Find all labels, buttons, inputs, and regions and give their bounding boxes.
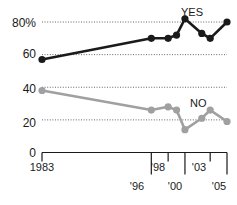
data-point-yes-2002 [198, 30, 205, 37]
y-tick-label-0: 0 [2, 147, 36, 159]
data-point-yes-1983 [38, 56, 45, 63]
data-point-yes-1996 [148, 35, 155, 42]
y-tick-label-20: 20 [2, 117, 36, 129]
chart-container: 80% 60 40 20 0 1983 '96 '98 '00 '03 '05 … [0, 0, 237, 205]
data-point-no-2005 [223, 118, 230, 125]
data-point-no-2000 [181, 126, 188, 133]
y-tick-label-80: 80% [2, 17, 36, 29]
x-tick-label-1983: 1983 [22, 162, 62, 173]
data-point-no-1996 [148, 106, 155, 113]
data-point-no-1998 [165, 103, 172, 110]
data-point-no-1983 [38, 87, 45, 94]
series-label-no: NO [190, 98, 207, 109]
x-tick-label-2005: '05 [207, 181, 231, 192]
series-yes [38, 15, 230, 63]
y-tick-label-60: 60 [2, 48, 36, 60]
x-tick-label-2000: '00 [163, 181, 187, 192]
data-point-yes-2003 [207, 35, 214, 42]
series-no [38, 87, 230, 133]
data-point-yes-1999 [173, 31, 180, 38]
x-tick-label-2003: '03 [187, 162, 211, 173]
data-point-yes-2005 [223, 18, 230, 25]
y-tick-label-40: 40 [2, 83, 36, 95]
x-tick-label-1996: '96 [125, 181, 149, 192]
series-line-yes [42, 19, 227, 60]
data-series [38, 15, 230, 133]
x-tick-label-1998: '98 [146, 162, 170, 173]
data-point-no-2002 [198, 115, 205, 122]
data-point-yes-1998 [165, 35, 172, 42]
data-point-no-1999 [173, 106, 180, 113]
data-point-no-2003 [207, 106, 214, 113]
series-label-yes: YES [181, 7, 203, 18]
